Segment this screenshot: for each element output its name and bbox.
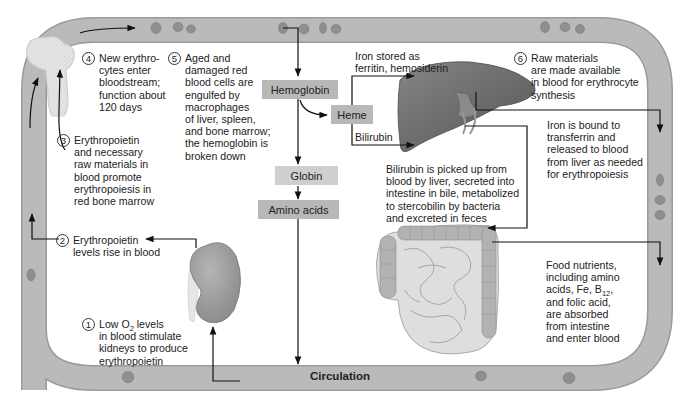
step-1: 1 Low O2 levels in blood stimulate kidne… [82, 318, 188, 367]
step-5-line: Aged and [185, 52, 270, 64]
iron-bound-line: released to blood [547, 143, 643, 155]
step-5-line: macrophages [185, 101, 270, 113]
step-2: 2 Erythropoietin levels rise in blood [56, 234, 160, 258]
amino-acids-box: Amino acids [258, 200, 339, 219]
food-nutrients-line: are absorbed [546, 308, 620, 320]
bilirubin-line: intestine in bile, metabolized [386, 187, 519, 199]
bilirubin-line: to stercobilin by bacteria [386, 200, 519, 212]
step-6: 6 Raw materials are made available in bl… [514, 52, 639, 101]
step-3-line: and necessary [74, 146, 154, 158]
step-1-line: Low O2 levels [99, 318, 188, 330]
iron-bound-line: Iron is bound to [547, 119, 643, 131]
step-3: 3 Erythropoietin and necessary raw mater… [57, 134, 154, 207]
step-3-text: Erythropoietin and necessary raw materia… [74, 134, 154, 207]
step-6-line: Raw materials [531, 52, 639, 64]
iron-stored-line: Iron stored as [355, 50, 448, 62]
step-1-line: erythropoietin [99, 355, 188, 367]
step-2-line: Erythropoietin [73, 234, 160, 246]
iron-stored-line: ferritin, hemosiderin [355, 62, 448, 74]
food-nutrients-line: acids, Fe, B12, [546, 283, 620, 295]
step-2-line: levels rise in blood [73, 246, 160, 258]
step-3-line: blood promote [74, 171, 154, 183]
step-number-badge: 6 [514, 52, 527, 65]
step-6-line: are made available [531, 64, 639, 76]
food-nutrients-line: including amino [546, 271, 620, 283]
step-5-text: Aged and damaged red blood cells are eng… [185, 52, 270, 162]
step-4-line: cytes enter [99, 64, 166, 76]
step-6-text: Raw materials are made available in bloo… [531, 52, 639, 101]
step-5-line: the hemoglobin is [185, 137, 270, 149]
step-4-line: 120 days [99, 101, 166, 113]
circulation-label: Circulation [310, 370, 370, 382]
iron-stored-note: Iron stored as ferritin, hemosiderin [355, 50, 448, 74]
heme-box: Heme [331, 105, 373, 124]
step-3-line: erythropoiesis in [74, 183, 154, 195]
step-5: 5 Aged and damaged red blood cells are e… [168, 52, 270, 162]
step-4-line: New erythro- [99, 52, 166, 64]
food-nutrients-line: and folic acid, [546, 296, 620, 308]
step-4-line: bloodstream; [99, 76, 166, 88]
globin-box: Globin [275, 166, 338, 185]
step-number-badge: 2 [56, 234, 69, 247]
step-1-line: kidneys to produce [99, 342, 188, 354]
text-part: acids, Fe, B [546, 283, 602, 295]
food-nutrients-line: Food nutrients, [546, 259, 620, 271]
step-5-line: broken down [185, 150, 270, 162]
step-3-line: Erythropoietin [74, 134, 154, 146]
step-5-line: and bone marrow; [185, 125, 270, 137]
step-3-line: red bone marrow [74, 195, 154, 207]
iron-bound-line: transferrin and [547, 131, 643, 143]
intestine-illustration [376, 225, 498, 354]
step-5-line: engulfed by [185, 89, 270, 101]
arrow-hemoglobin-to-heme [300, 100, 327, 115]
step-3-line: raw materials in [74, 158, 154, 170]
step-5-line: damaged red [185, 64, 270, 76]
step-number-badge: 3 [57, 134, 70, 147]
iron-bound-line: for erythropoiesis [547, 168, 643, 180]
step-1-line: in blood stimulate [99, 330, 188, 342]
step-number-badge: 4 [82, 52, 95, 65]
food-nutrients-line: from intestine [546, 320, 620, 332]
step-5-line: blood cells are [185, 76, 270, 88]
step-number-badge: 5 [168, 52, 181, 65]
iron-bound-line: from liver as needed [547, 156, 643, 168]
text-part: , [610, 283, 613, 295]
bilirubin-note: Bilirubin is picked up from blood by liv… [386, 163, 519, 224]
kidney-illustration [188, 243, 241, 323]
step-4: 4 New erythro- cytes enter bloodstream; … [82, 52, 166, 113]
food-nutrients-note: Food nutrients, including amino acids, F… [546, 259, 620, 344]
bilirubin-label: Bilirubin [355, 131, 393, 143]
step-1-text: Low O2 levels in blood stimulate kidneys… [99, 318, 188, 367]
hemoglobin-box: Hemoglobin [262, 80, 338, 99]
step-4-text: New erythro- cytes enter bloodstream; fu… [99, 52, 166, 113]
step-5-line: of liver, spleen, [185, 113, 270, 125]
step-number-badge: 1 [82, 318, 95, 331]
bilirubin-line: Bilirubin is picked up from [386, 163, 519, 175]
step-6-line: synthesis [531, 89, 639, 101]
bilirubin-line: blood by liver, secreted into [386, 175, 519, 187]
step-4-line: function about [99, 89, 166, 101]
food-nutrients-line: and enter blood [546, 332, 620, 344]
bilirubin-line: and excreted in feces [386, 212, 519, 224]
step-6-line: in blood for erythrocyte [531, 76, 639, 88]
step-2-text: Erythropoietin levels rise in blood [73, 234, 160, 258]
iron-bound-note: Iron is bound to transferrin and release… [547, 119, 643, 180]
erythropoiesis-diagram: 1 Low O2 levels in blood stimulate kidne… [0, 0, 684, 401]
